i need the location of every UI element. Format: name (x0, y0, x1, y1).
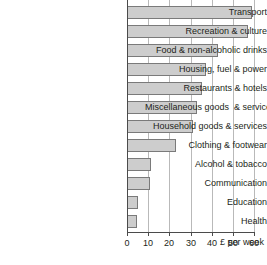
category-label-clothing-footwear: Clothing & footwear (145, 139, 267, 152)
category-label-household-goods-services: Household goods & services (145, 120, 267, 133)
category-label-communication: Communication (145, 177, 267, 190)
category-label-recreation-culture: Recreation & culture (145, 25, 267, 38)
bar-education[interactable] (127, 196, 138, 209)
category-label-housing-fuel-power: Housing, fuel & power (145, 63, 267, 76)
category-label-restaurants-hotels: Restaurants & hotels (145, 82, 267, 95)
category-label-miscellaneous-goods-services: Miscellaneous goods & services (145, 101, 267, 114)
x-axis-title: £ per week (145, 236, 267, 248)
bar-health[interactable] (127, 215, 137, 228)
category-label-transport: Transport (145, 6, 267, 19)
category-label-food-non-alcoholic-drinks: Food & non-alcoholic drinks (145, 44, 267, 57)
y-axis-line (127, 0, 128, 233)
category-label-alcohol-tobacco: Alcohol & tobacco (145, 158, 267, 171)
bar-chart: 0 10 20 30 40 50 60 Transport Recreation… (0, 0, 267, 265)
category-label-health: Health (145, 215, 267, 228)
category-label-education: Education (145, 196, 267, 209)
xtick-0 (127, 232, 128, 236)
xtick-label-0: 0 (117, 238, 137, 249)
